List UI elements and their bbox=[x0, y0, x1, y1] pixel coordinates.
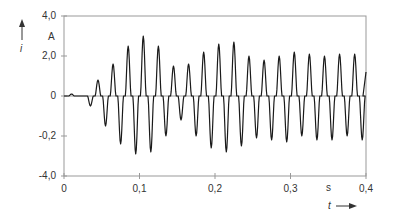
x-axis-arrow-icon bbox=[336, 203, 357, 209]
y-axis-symbol: i bbox=[20, 44, 22, 54]
y-tick-label: -4,0 bbox=[16, 171, 56, 181]
x-tick-label: 0,3 bbox=[276, 184, 306, 194]
y-tick-label: -0,2 bbox=[16, 131, 56, 141]
y-axis-arrow-icon bbox=[19, 19, 25, 40]
x-tick-label: 0,2 bbox=[200, 184, 230, 194]
y-tick-label: 4,0 bbox=[16, 11, 56, 21]
x-unit-label: s bbox=[326, 183, 331, 193]
y-tick-label: 0 bbox=[16, 91, 56, 101]
x-tick-label: 0,1 bbox=[125, 184, 155, 194]
current-waveform bbox=[64, 36, 366, 154]
x-tick-label: 0 bbox=[49, 184, 79, 194]
x-axis-symbol: t bbox=[328, 201, 331, 211]
y-unit-label: A bbox=[48, 32, 55, 42]
x-tick-label: 0,4 bbox=[351, 184, 381, 194]
